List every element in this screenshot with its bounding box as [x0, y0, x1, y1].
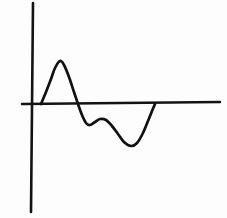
plot-canvas — [0, 0, 227, 218]
figure-background — [0, 0, 227, 218]
waveform-figure — [0, 0, 227, 218]
